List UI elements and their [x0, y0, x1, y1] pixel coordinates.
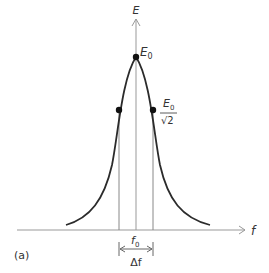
- y-axis-label: E: [133, 4, 140, 17]
- left-half-power-point: [116, 107, 122, 113]
- resonance-curve-diagram: E f E0 E0 √2 f0 Δf (a): [0, 0, 269, 273]
- resonance-curve: [66, 57, 210, 225]
- peak-point: [133, 54, 139, 60]
- panel-label: (a): [14, 249, 29, 262]
- bandwidth-label: Δf: [130, 256, 143, 269]
- peak-label: E0: [140, 45, 153, 61]
- center-frequency-label: f0: [131, 234, 139, 249]
- half-power-denominator: √2: [161, 115, 174, 126]
- half-power-numerator: E0: [163, 97, 174, 112]
- x-axis-label: f: [251, 224, 257, 238]
- right-half-power-point: [150, 107, 156, 113]
